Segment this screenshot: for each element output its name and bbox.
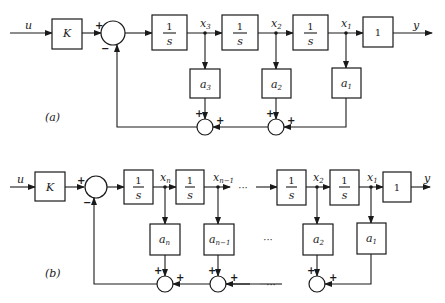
integrator-numerator: 1 (341, 175, 347, 186)
state-label-x1: x1 (367, 171, 378, 185)
feedback-summer-2 (268, 119, 284, 135)
block-diagram: u K + − 1 s x3 1 s x2 1 s x1 (0, 0, 445, 303)
summing-junction (101, 21, 125, 45)
integrator-denominator: s (342, 189, 348, 202)
plus-sign: + (176, 272, 184, 283)
feedback-summer-1 (157, 276, 173, 292)
state-label-x2: x2 (313, 171, 324, 185)
integrator-denominator: s (308, 35, 314, 48)
integrator-numerator: 1 (187, 175, 193, 186)
integrator-numerator: 1 (135, 175, 141, 186)
output-block-label: 1 (394, 182, 400, 193)
minus-sign: − (101, 43, 109, 54)
state-label-x3: x3 (200, 17, 211, 31)
integrator-numerator: 1 (237, 21, 243, 32)
diagram-label-b: (b) (45, 267, 61, 280)
feedback-summer-3 (309, 276, 325, 292)
plus-sign: + (208, 265, 216, 276)
ellipsis: ··· (266, 279, 276, 290)
output-block-label: 1 (375, 27, 381, 38)
state-label-x2: x2 (271, 17, 282, 31)
plus-sign: + (287, 115, 295, 126)
summing-junction (85, 176, 107, 198)
integrator-numerator: 1 (307, 21, 313, 32)
minus-sign: − (83, 197, 91, 208)
output-label: y (412, 19, 420, 32)
plus-sign: + (307, 265, 315, 276)
state-label-xn-1: xn−1 (213, 171, 234, 185)
integrator-numerator: 1 (288, 175, 294, 186)
feedback-summer-2 (210, 276, 226, 292)
plus-sign: + (154, 265, 162, 276)
gain-label: K (62, 27, 72, 40)
gain-label: K (45, 181, 55, 194)
state-label-x1: x1 (341, 17, 352, 31)
feedback-return-line (94, 198, 157, 284)
plus-sign: + (195, 108, 203, 119)
diagram-a: u K + − 1 s x3 1 s x2 1 s x1 (10, 15, 432, 135)
feedback-summer-1 (197, 119, 213, 135)
integrator-numerator: 1 (166, 21, 172, 32)
diagram-label-a: (a) (45, 111, 60, 124)
ellipsis: ··· (238, 182, 248, 193)
plus-sign: + (77, 175, 85, 186)
plus-sign: + (266, 108, 274, 119)
integrator-denominator: s (167, 35, 173, 48)
plus-sign: + (329, 272, 337, 283)
feedback-return-line (117, 45, 197, 127)
ellipsis: ··· (263, 234, 273, 245)
state-label-xn: xn (160, 171, 171, 185)
input-label: u (17, 173, 24, 186)
integrator-denominator: s (136, 189, 142, 202)
diagram-b: u K + − 1 s xn 1 s xn−1 ··· 1 s x2 (10, 170, 431, 292)
plus-sign: + (230, 272, 238, 283)
output-label: y (423, 172, 431, 185)
input-label: u (25, 19, 32, 32)
integrator-denominator: s (237, 35, 243, 48)
plus-sign: + (216, 115, 224, 126)
integrator-denominator: s (289, 189, 295, 202)
integrator-denominator: s (187, 189, 193, 202)
